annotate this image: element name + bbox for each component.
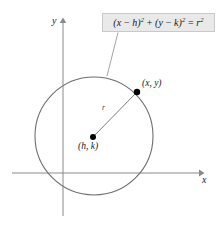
x-axis (12, 170, 205, 177)
circle-point-dot (134, 89, 140, 95)
y-axis-arrowhead-icon (60, 18, 67, 24)
circle-equation-text: (x − h)2 + (y − k)2 = r2 (113, 17, 203, 28)
callout-leader-line (107, 33, 118, 77)
circle-point-label: (x, y) (142, 79, 162, 89)
y-axis-label: y (52, 16, 56, 26)
eq-exponent-3: 2 (200, 16, 203, 23)
equation-callout-box: (x − h)2 + (y − k)2 = r2 (102, 13, 215, 32)
center-point-label: (h, k) (78, 142, 98, 152)
eq-minus-2: − (163, 17, 174, 28)
eq-equals: = (185, 17, 196, 28)
x-axis-label: x (202, 175, 206, 185)
radius-label: r (102, 104, 105, 112)
eq-plus: + (144, 17, 155, 28)
diagram-canvas (0, 0, 220, 229)
eq-minus-1: − (121, 17, 132, 28)
circle-equation-figure: y x r (h, k) (x, y) (x − h)2 + (y − k)2 … (0, 0, 220, 229)
radius-segment (93, 92, 137, 137)
center-point-dot (90, 134, 96, 140)
